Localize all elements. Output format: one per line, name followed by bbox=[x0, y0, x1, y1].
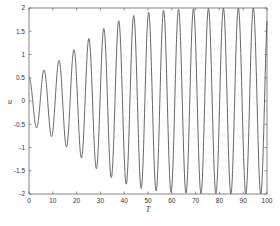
y-tick-label: -2 bbox=[19, 190, 25, 197]
x-axis-ticks: 0102030405060708090100 bbox=[27, 8, 273, 204]
y-tick-label: 2 bbox=[21, 4, 25, 11]
x-tick-label: 20 bbox=[73, 197, 81, 204]
y-tick-label: -0.5 bbox=[14, 121, 26, 128]
x-tick-label: 80 bbox=[216, 197, 224, 204]
x-tick-label: 70 bbox=[192, 197, 200, 204]
y-tick-label: 0 bbox=[21, 97, 25, 104]
plot-frame bbox=[29, 8, 267, 194]
x-tick-label: 0 bbox=[27, 197, 31, 204]
x-tick-label: 50 bbox=[144, 197, 152, 204]
x-tick-label: 10 bbox=[49, 197, 57, 204]
x-tick-label: 60 bbox=[168, 197, 176, 204]
y-tick-label: 0.5 bbox=[16, 74, 25, 81]
x-tick-label: 90 bbox=[240, 197, 248, 204]
y-tick-label: -1.5 bbox=[14, 167, 26, 174]
line-chart: 0102030405060708090100 21.510.50-0.5-1-1… bbox=[0, 0, 280, 226]
x-tick-label: 40 bbox=[121, 197, 129, 204]
y-axis-label: u bbox=[8, 97, 12, 106]
data-line-u bbox=[29, 8, 267, 194]
x-tick-label: 100 bbox=[262, 197, 273, 204]
x-tick-label: 30 bbox=[97, 197, 105, 204]
y-tick-label: 1 bbox=[21, 51, 25, 58]
y-tick-label: -1 bbox=[19, 144, 25, 151]
y-tick-label: 1.5 bbox=[16, 28, 25, 35]
x-axis-label: T bbox=[146, 205, 151, 214]
